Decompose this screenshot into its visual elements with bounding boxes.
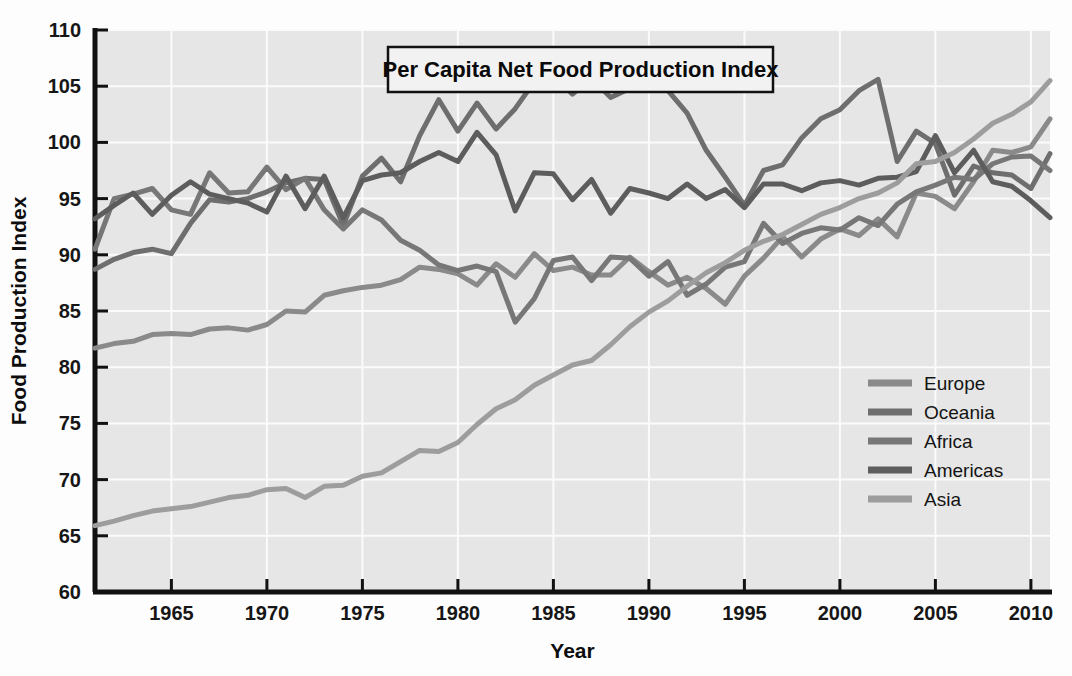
legend-label-americas: Americas — [924, 460, 1003, 481]
chart-container: 6065707580859095100105110 19651970197519… — [0, 0, 1072, 676]
y-axis-title: Food Production Index — [7, 196, 30, 425]
x-tick-label: 1980 — [436, 602, 481, 624]
y-tick-label: 80 — [59, 356, 81, 378]
x-tick-label: 1970 — [245, 602, 290, 624]
y-tick-label: 100 — [48, 131, 81, 153]
x-tick-label: 2005 — [913, 602, 958, 624]
x-tick-label: 2010 — [1009, 602, 1054, 624]
y-tick-label: 75 — [59, 412, 81, 434]
legend-label-oceania: Oceania — [924, 402, 995, 423]
x-tick-label: 2000 — [818, 602, 863, 624]
x-tick-label: 1995 — [722, 602, 767, 624]
y-tick-label: 105 — [48, 75, 81, 97]
x-tick-label: 1965 — [149, 602, 194, 624]
y-tick-label: 85 — [59, 300, 81, 322]
y-tick-label: 60 — [59, 581, 81, 603]
x-tick-label: 1990 — [627, 602, 672, 624]
y-tick-label: 110 — [49, 19, 81, 41]
chart-title-text: Per Capita Net Food Production Index — [382, 57, 779, 82]
x-tick-label: 1975 — [340, 602, 385, 624]
x-axis-title: Year — [550, 639, 594, 662]
y-tick-label: 90 — [59, 244, 81, 266]
y-tick-label: 70 — [59, 469, 81, 491]
x-tick-label: 1985 — [531, 602, 576, 624]
chart-title-box: Per Capita Net Food Production Index — [382, 47, 779, 92]
y-tick-label: 65 — [59, 525, 81, 547]
y-tick-label: 95 — [59, 188, 81, 210]
legend-label-europe: Europe — [924, 373, 985, 394]
line-chart: 6065707580859095100105110 19651970197519… — [0, 0, 1072, 676]
legend-label-africa: Africa — [924, 431, 973, 452]
legend-label-asia: Asia — [924, 489, 961, 510]
